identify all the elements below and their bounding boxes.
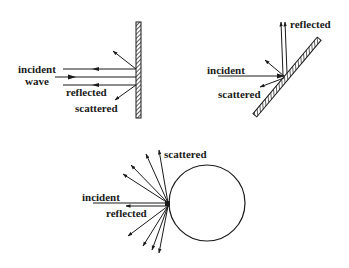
label-reflected: reflected	[66, 86, 107, 98]
label-scattered: scattered	[218, 88, 261, 100]
panel-sphere: scattered incident reflected	[82, 148, 245, 253]
label-incident: incident	[82, 191, 120, 203]
reflected-ray-2	[285, 22, 287, 73]
scattered-ray-up	[113, 51, 136, 69]
scattered-ray-down	[115, 85, 136, 100]
label-scattered: scattered	[164, 148, 207, 160]
scattered-ray-up	[265, 60, 284, 76]
label-reflected: reflected	[290, 18, 331, 30]
wall	[136, 22, 141, 118]
panel-tilted-plate: reflected incident scattered	[207, 18, 331, 117]
arrow-left-icon	[92, 67, 99, 71]
panel-flat-wall: incident wave reflected scattered	[18, 22, 141, 118]
reflected-ray-1	[281, 22, 283, 75]
sphere	[169, 165, 245, 241]
scattering-diagram: incident wave reflected scattered reflec…	[0, 0, 349, 268]
label-scattered: scattered	[75, 102, 118, 114]
arrow-right-icon	[68, 75, 76, 80]
label-reflected: reflected	[106, 207, 147, 219]
label-wave: wave	[25, 75, 49, 87]
label-incident: incident	[207, 64, 245, 76]
tilted-plate	[253, 37, 321, 117]
label-incident: incident	[18, 63, 56, 75]
